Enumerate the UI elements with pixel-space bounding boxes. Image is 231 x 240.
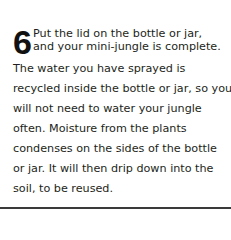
body-line: often. Moisture from the plants <box>13 119 229 139</box>
lead-line: Put the lid on the bottle or jar, <box>33 27 229 40</box>
step-number: 6 <box>13 27 32 57</box>
step-body-text: The water you have sprayed is recycled i… <box>13 59 229 199</box>
instruction-step: 6 Put the lid on the bottle or jar, and … <box>13 27 229 199</box>
body-line: The water you have sprayed is <box>13 59 229 79</box>
body-line: recycled inside the bottle or jar, so yo… <box>13 79 229 99</box>
lead-line: and your mini-jungle is complete. <box>33 40 229 53</box>
step-lead-text: Put the lid on the bottle or jar, and yo… <box>13 27 229 53</box>
horizontal-divider <box>0 207 231 209</box>
body-line: condenses on the sides of the bottle <box>13 139 229 159</box>
body-line: soil, to be reused. <box>13 179 229 199</box>
body-line: will not need to water your jungle <box>13 99 229 119</box>
body-line: or jar. It will then drip down into the <box>13 159 229 179</box>
